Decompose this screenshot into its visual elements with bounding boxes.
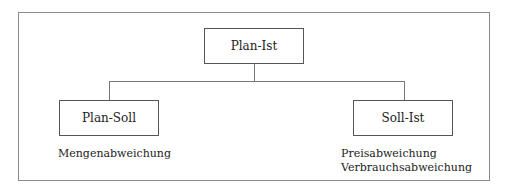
node-soll-ist: Soll-Ist bbox=[353, 100, 453, 136]
connector-root-down bbox=[254, 64, 255, 81]
node-label: Soll-Ist bbox=[382, 111, 425, 125]
node-plan-soll: Plan-Soll bbox=[59, 100, 159, 136]
connector-right-down bbox=[404, 81, 405, 100]
connector-horizontal bbox=[109, 81, 405, 82]
node-label: Plan-Ist bbox=[231, 39, 278, 53]
node-label: Plan-Soll bbox=[82, 111, 136, 125]
note-verbrauchsabweichung: Verbrauchsabweichung bbox=[341, 161, 472, 175]
node-plan-ist: Plan-Ist bbox=[204, 28, 304, 64]
note-mengenabweichung: Mengenabweichung bbox=[58, 147, 171, 161]
note-preisabweichung: Preisabweichung bbox=[341, 147, 437, 161]
connector-left-down bbox=[109, 81, 110, 100]
